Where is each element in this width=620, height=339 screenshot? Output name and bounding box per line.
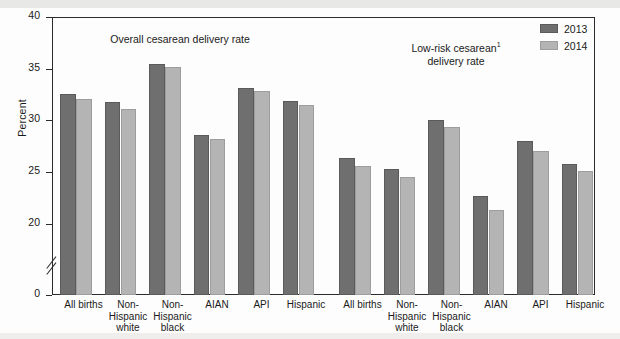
legend-swatch-2014: [540, 41, 558, 50]
legend-item-2013[interactable]: 2013: [540, 21, 610, 36]
y-tick-40: 40: [0, 17, 52, 18]
legend-swatch-2013: [540, 24, 558, 33]
y-tick-0: 0: [0, 295, 52, 296]
panel-title-lowrisk-line2: delivery rate: [427, 55, 484, 67]
bar-overall-cesarean-delivery-rate-non-hispanic-black-2014: [165, 67, 181, 295]
bar-low-risk-cesarean-delivery-rate-api-2013: [517, 141, 533, 295]
footnote-marker: 1: [497, 41, 501, 48]
bar-overall-cesarean-delivery-rate-api-2014: [254, 91, 270, 295]
bar-low-risk-cesarean-delivery-rate-all-births-2014: [355, 166, 371, 295]
bar-low-risk-cesarean-delivery-rate-aian-2014: [489, 210, 505, 295]
bar-overall-cesarean-delivery-rate-hispanic-2013: [283, 101, 299, 295]
y-tick-mark-0: [46, 295, 52, 296]
legend-item-2014[interactable]: 2014: [540, 38, 610, 53]
bar-low-risk-cesarean-delivery-rate-non-hispanic-white-2013: [384, 169, 400, 295]
bar-low-risk-cesarean-delivery-rate-non-hispanic-black-2014: [444, 127, 460, 295]
x-axis-labels: All birthsNon- Hispanic whiteNon- Hispan…: [52, 299, 595, 339]
panel-title-lowrisk-line1: Low-risk cesarean: [411, 42, 496, 54]
bar-low-risk-cesarean-delivery-rate-all-births-2013: [339, 158, 355, 295]
y-tick-label-25: 25: [28, 164, 40, 176]
y-axis-title: Percent: [16, 58, 28, 178]
bar-low-risk-cesarean-delivery-rate-hispanic-2013: [562, 164, 578, 295]
bar-low-risk-cesarean-delivery-rate-api-2014: [533, 151, 549, 295]
y-tick-30: 30: [0, 120, 52, 121]
bar-overall-cesarean-delivery-rate-aian-2013: [194, 135, 210, 295]
bar-overall-cesarean-delivery-rate-non-hispanic-black-2013: [149, 64, 165, 295]
legend: 2013 2014: [540, 21, 610, 55]
bar-overall-cesarean-delivery-rate-hispanic-2014: [299, 105, 315, 295]
page-edge-top: [0, 0, 620, 8]
legend-label-2014: 2014: [564, 40, 587, 52]
bar-low-risk-cesarean-delivery-rate-hispanic-2014: [578, 171, 594, 295]
legend-label-2013: 2013: [564, 23, 587, 35]
panel-title-lowrisk: Low-risk cesarean1 delivery rate: [356, 38, 556, 68]
y-tick-35: 35: [0, 69, 52, 70]
cesarean-rate-figure: Percent 02025303540 Overall cesarean del…: [0, 0, 620, 339]
y-tick-label-40: 40: [28, 9, 40, 21]
y-tick-25: 25: [0, 172, 52, 173]
y-tick-label-35: 35: [28, 61, 40, 73]
bar-overall-cesarean-delivery-rate-api-2013: [238, 88, 254, 295]
bar-low-risk-cesarean-delivery-rate-non-hispanic-black-2013: [428, 120, 444, 295]
bar-overall-cesarean-delivery-rate-non-hispanic-white-2013: [105, 102, 121, 295]
x-axis-label-lowrisk-hispanic: Hispanic: [552, 299, 618, 311]
bar-overall-cesarean-delivery-rate-non-hispanic-white-2014: [121, 109, 137, 295]
y-tick-label-0: 0: [34, 287, 40, 299]
y-tick-label-30: 30: [28, 112, 40, 124]
bar-low-risk-cesarean-delivery-rate-aian-2013: [473, 196, 489, 295]
panel-title-overall: Overall cesarean delivery rate: [70, 33, 290, 46]
bar-overall-cesarean-delivery-rate-aian-2014: [210, 139, 226, 295]
bar-low-risk-cesarean-delivery-rate-non-hispanic-white-2014: [400, 177, 416, 295]
y-tick-label-20: 20: [28, 216, 40, 228]
bar-overall-cesarean-delivery-rate-all-births-2013: [60, 94, 76, 295]
y-tick-20: 20: [0, 224, 52, 225]
bar-overall-cesarean-delivery-rate-all-births-2014: [76, 99, 92, 295]
